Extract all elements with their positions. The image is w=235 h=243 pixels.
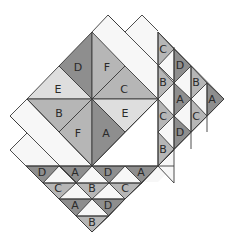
piece-label: D xyxy=(38,166,46,179)
piece-label: B xyxy=(159,143,167,156)
piece-label: B xyxy=(55,107,63,120)
piece-label: F xyxy=(75,127,81,140)
piece-label: C xyxy=(159,43,167,56)
piece-label: D xyxy=(104,166,112,179)
piece-label: B xyxy=(88,216,96,229)
piece-label: D xyxy=(74,61,82,74)
piece-label: A xyxy=(71,166,79,179)
piece-label: E xyxy=(55,83,62,96)
piece-label: A xyxy=(176,93,184,106)
piece-label: C xyxy=(121,182,129,195)
piece-label: C xyxy=(192,110,200,123)
piece-label: F xyxy=(104,61,110,74)
piece-label: A xyxy=(71,199,79,212)
piece-label: D xyxy=(176,126,184,139)
piece-label: C xyxy=(120,83,128,96)
piece-label: B xyxy=(192,76,200,89)
piece-label: C xyxy=(54,182,62,195)
piece-label: B xyxy=(159,76,167,89)
piece-label: D xyxy=(104,199,112,212)
piece-label: A xyxy=(137,166,145,179)
quilt-diagram: DFECBEFACBCBDADBCADADACBCADB xyxy=(0,0,235,243)
piece-label: E xyxy=(122,107,129,120)
quilt-block-svg: DFECBEFACBCBDADBCADADACBCADB xyxy=(0,0,235,243)
piece-label: A xyxy=(102,127,110,140)
piece-label: D xyxy=(176,59,184,72)
piece-label: B xyxy=(88,182,96,195)
piece-label: C xyxy=(159,110,167,123)
piece-label: A xyxy=(208,93,216,106)
